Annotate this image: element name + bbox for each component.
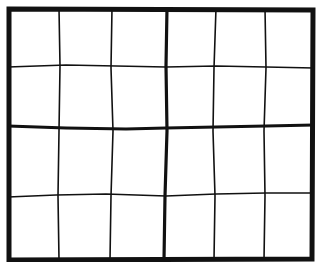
puzzle-board	[6, 6, 316, 262]
cell-r3-c5[interactable]	[215, 129, 265, 195]
cell-r1-c1[interactable]	[10, 10, 60, 66]
cell-r3-c2[interactable]	[60, 129, 112, 195]
cell-r4-c2[interactable]	[60, 196, 112, 258]
cell-r4-c4[interactable]	[167, 196, 214, 258]
cell-r3-c3[interactable]	[112, 129, 166, 195]
cell-r4-c1[interactable]	[10, 196, 60, 258]
cell-r2-c5[interactable]	[215, 67, 265, 126]
cell-r2-c2[interactable]	[60, 67, 112, 126]
cell-r3-c1[interactable]	[10, 129, 60, 195]
cell-r1-c6[interactable]	[266, 10, 311, 66]
cell-r4-c5[interactable]	[215, 196, 265, 258]
cell-r2-c3[interactable]	[112, 67, 166, 126]
cell-r1-c2[interactable]	[60, 10, 112, 66]
cell-r4-c6[interactable]	[266, 196, 311, 258]
cell-r1-c4[interactable]	[167, 10, 214, 66]
cell-r2-c6[interactable]	[266, 67, 311, 126]
cell-r2-c1[interactable]	[10, 67, 60, 126]
cell-r1-c3[interactable]	[112, 10, 166, 66]
cell-r1-c5[interactable]	[215, 10, 265, 66]
cell-r2-c4[interactable]	[167, 67, 214, 126]
cell-r3-c6[interactable]	[266, 129, 311, 195]
cell-r3-c4[interactable]	[167, 129, 214, 195]
cell-r4-c3[interactable]	[112, 196, 166, 258]
